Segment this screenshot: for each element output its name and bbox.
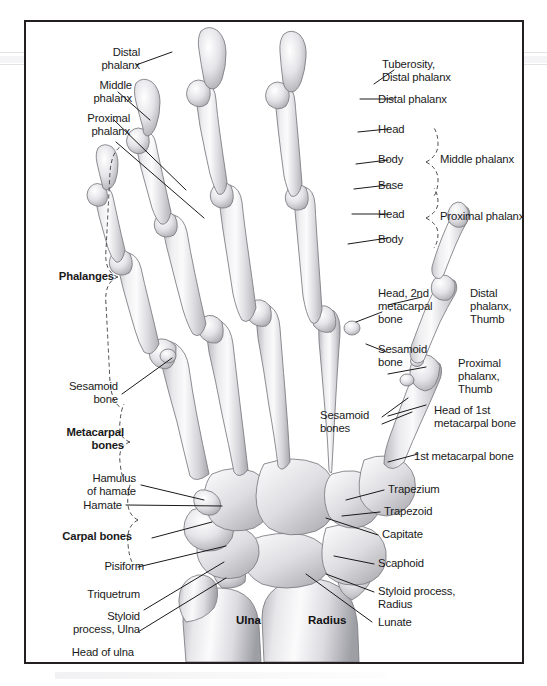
label-distal-phalanx-right: Distal phalanx (378, 93, 447, 106)
label-body-middle: Body (378, 153, 403, 166)
label-hamate: Hamate (56, 499, 122, 512)
label-proximal-phalanx-group: Proximal phalanx (440, 210, 524, 223)
label-metacarpal-bones-group: Metacarpal bones (32, 426, 124, 452)
label-trapezoid: Trapezoid (384, 505, 432, 518)
label-head-proximal: Head (378, 208, 404, 221)
label-styloid-process-ulna: Styloid process, Ulna (36, 610, 140, 636)
label-sesamoid-bone-left: Sesamoid bone (36, 380, 118, 406)
label-head-of-1st-metacarpal-bone: Head of 1st metacarpal bone (434, 404, 516, 430)
label-triquetrum: Triquetrum (36, 588, 140, 601)
label-phalanges-group: Phalanges (30, 270, 114, 283)
label-proximal-phalanx-thumb: Proximal phalanx, Thumb (458, 357, 501, 395)
label-distal-phalanx-left: Distal phalanx (54, 46, 140, 72)
label-sesamoid-bone-right: Sesamoid bone (378, 343, 427, 369)
label-tuberosity-distal-phalanx: Tuberosity, Distal phalanx (382, 58, 451, 84)
scan-artifact-footer-smudge (55, 672, 385, 679)
label-base-middle: Base (378, 179, 403, 192)
label-sesamoid-bones-thumb: Sesamoid bones (320, 409, 369, 435)
label-styloid-process-radius: Styloid process, Radius (378, 585, 455, 611)
ulna-art-label: Ulna (236, 614, 262, 626)
label-distal-phalanx-thumb: Distal phalanx, Thumb (470, 287, 512, 325)
label-capitate: Capitate (382, 528, 423, 541)
label-middle-phalanx-group: Middle phalanx (440, 153, 514, 166)
label-proximal-phalanx-left: Proximal phalanx (34, 112, 130, 138)
label-body-proximal: Body (378, 233, 403, 246)
label-scaphoid: Scaphoid (378, 557, 424, 570)
label-1st-metacarpal-bone: 1st metacarpal bone (414, 450, 514, 463)
label-head-of-ulna: Head of ulna (32, 646, 134, 659)
label-hamulus-of-hamate: Hamulus of hamate (46, 472, 136, 498)
label-head-middle: Head (378, 123, 404, 136)
label-lunate: Lunate (378, 616, 412, 629)
label-head-2nd-metacarpal-bone: Head, 2nd metacarpal bone (378, 287, 432, 325)
label-carpal-bones-group: Carpal bones (32, 530, 132, 543)
figure-frame: Ulna Radius Distal phalanx Middle phalan… (24, 20, 524, 664)
label-middle-phalanx-left: Middle phalanx (44, 79, 132, 105)
label-pisiform: Pisiform (56, 560, 144, 573)
radius-art-label: Radius (308, 614, 346, 626)
label-trapezium: Trapezium (388, 483, 440, 496)
